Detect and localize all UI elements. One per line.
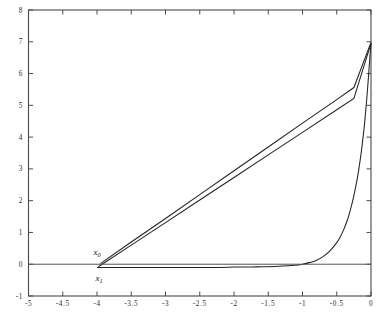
x-tick-label: -1 xyxy=(299,300,306,308)
x-tick-label: 0 xyxy=(369,300,373,308)
x-tick-label: -4.5 xyxy=(56,300,70,308)
y-tick-label: 1 xyxy=(19,229,23,237)
chart-background xyxy=(0,0,386,316)
x-tick-label: -2.5 xyxy=(193,300,207,308)
figure-container: -5-4.5-4-3.5-3-2.5-2-1.5-1-0.50 -1012345… xyxy=(0,0,386,316)
y-tick-label: 3 xyxy=(19,165,23,173)
y-tick-label: 5 xyxy=(19,102,23,110)
x-tick-label: -3 xyxy=(162,300,169,308)
y-tick-label: 4 xyxy=(19,134,23,142)
y-tick-label: -1 xyxy=(16,293,23,301)
x-tick-label: -0.5 xyxy=(330,300,344,308)
y-tick-label: 6 xyxy=(19,70,23,78)
y-tick-label: 0 xyxy=(19,261,23,269)
x-tick-label: -3.5 xyxy=(124,300,138,308)
x-tick-label: -4 xyxy=(93,300,100,308)
x-tick-label: -1.5 xyxy=(261,300,275,308)
line-chart: -5-4.5-4-3.5-3-2.5-2-1.5-1-0.50 -1012345… xyxy=(0,0,386,316)
y-tick-label: 2 xyxy=(19,197,23,205)
x-tick-label: -2 xyxy=(230,300,237,308)
x-tick-label: -5 xyxy=(25,300,32,308)
y-tick-label: 8 xyxy=(19,7,23,15)
y-tick-label: 7 xyxy=(19,38,23,46)
